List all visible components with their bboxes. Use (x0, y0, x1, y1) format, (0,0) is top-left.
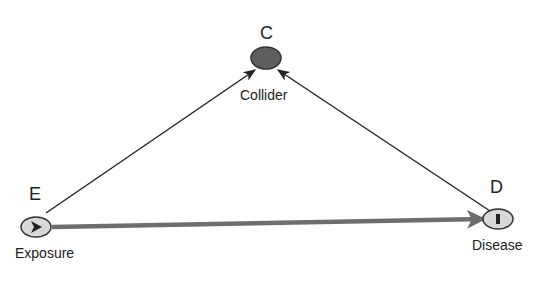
edge-exposure-to-disease (52, 219, 484, 227)
node-label: Disease (472, 237, 523, 253)
node-label: Exposure (15, 245, 74, 261)
node-collider[interactable]: C Collider (240, 23, 288, 103)
node-disease[interactable]: D Disease (472, 177, 523, 253)
node-letter: E (29, 184, 41, 204)
edge-exposure-to-collider (46, 70, 255, 213)
node-letter: D (490, 177, 503, 197)
bar-icon (496, 214, 500, 224)
edge-disease-to-collider (278, 70, 490, 211)
causal-diagram: E Exposure C Collider D Disease (0, 0, 533, 282)
node-label: Collider (240, 87, 288, 103)
node-exposure[interactable]: E Exposure (15, 184, 74, 261)
node-letter: C (260, 23, 273, 43)
